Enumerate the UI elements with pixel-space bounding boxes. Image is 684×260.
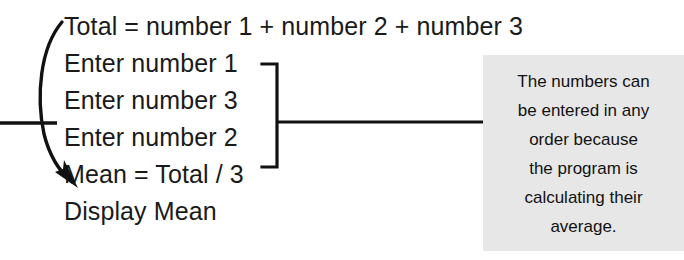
annotation-line: order because <box>529 125 638 154</box>
annotation-line: be entered in any <box>518 96 649 125</box>
pseudocode-block: Total = number 1 + number 2 + number 3 E… <box>64 8 484 230</box>
pseudocode-line: Enter number 3 <box>64 82 484 119</box>
annotation-line: the program is <box>529 154 638 183</box>
annotation-line: average. <box>550 212 616 241</box>
annotation-line: calculating their <box>524 183 642 212</box>
pseudocode-line: Total = number 1 + number 2 + number 3 <box>64 8 484 45</box>
pseudocode-line: Enter number 1 <box>64 45 484 82</box>
pseudocode-line: Mean = Total / 3 <box>64 156 484 193</box>
annotation-callout-box: The numbers can be entered in any order … <box>483 55 684 251</box>
pseudocode-line: Enter number 2 <box>64 119 484 156</box>
pseudocode-line: Display Mean <box>64 193 484 230</box>
figure-root: Total = number 1 + number 2 + number 3 E… <box>0 0 684 260</box>
annotation-line: The numbers can <box>517 67 649 96</box>
